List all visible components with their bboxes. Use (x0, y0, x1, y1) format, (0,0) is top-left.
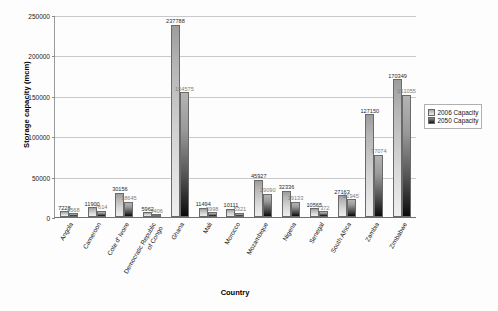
legend-swatch-icon (428, 109, 435, 116)
legend-item[interactable]: 2050 Capacity (428, 117, 478, 124)
bar-groups: 7228456811900761430156186455962340623778… (55, 16, 416, 217)
bar-group: 59623406 (138, 16, 166, 217)
bar: 19133 (291, 202, 300, 217)
bar-chart: Storage capacity (mcm) 05000010000015000… (0, 0, 498, 311)
chart-legend: 2006 Capacity2050 Capacity (424, 104, 482, 129)
legend-label: 2006 Capacity (438, 109, 479, 116)
bar: 3406 (152, 214, 161, 217)
x-category-label: South Africa (332, 221, 360, 283)
x-category-label: Mali (193, 221, 221, 283)
bar-value-label: 154575 (175, 86, 194, 93)
legend-item[interactable]: 2006 Capacity (428, 109, 478, 116)
bar: 7372 (319, 211, 328, 217)
bar: 18645 (124, 202, 133, 217)
bar: 29090 (263, 194, 272, 218)
x-category-text: Cameroon (81, 221, 102, 250)
bar-group: 114945998 (194, 16, 222, 217)
bar-group: 105657372 (305, 16, 333, 217)
x-category-label: Democratic Republic of Congo (138, 221, 166, 283)
x-category-label: Nigeria (277, 221, 305, 283)
bar: 21945 (347, 199, 356, 217)
bar-value-label: 5998 (206, 206, 218, 213)
bar-value-label: 32336 (279, 184, 295, 191)
y-tick-label: 0 (10, 215, 50, 222)
bar: 170349 (393, 79, 402, 217)
bar-group: 12715077074 (360, 16, 388, 217)
y-axis-tick-labels: 050000100000150000200000250000 (10, 0, 50, 311)
y-tick-label: 50000 (10, 174, 50, 181)
bar: 237788 (171, 25, 180, 217)
bar: 154575 (180, 92, 189, 217)
x-axis-category-labels: AngolaCameroonCote d' IvoireDemocratic R… (54, 221, 416, 283)
x-category-text: Mozambique (245, 221, 269, 256)
legend-label: 2050 Capacity (438, 117, 479, 124)
bar-group: 237788154575 (166, 16, 194, 217)
x-axis-title: Country (54, 288, 416, 297)
x-category-text: Mali (201, 221, 213, 234)
x-category-label: Mozambique (249, 221, 277, 283)
y-tick-label: 200000 (10, 53, 50, 60)
x-category-text: Senegal (307, 221, 325, 245)
bar-value-label: 7614 (95, 204, 107, 211)
bar: 4568 (69, 213, 78, 217)
bar-value-label: 127150 (360, 108, 379, 115)
bar: 7614 (97, 211, 106, 217)
x-category-text: Cote d' Ivoire (105, 221, 130, 256)
x-category-text: Nigeria (281, 221, 297, 242)
bar: 151055 (402, 95, 411, 217)
bar-group: 72284568 (55, 16, 83, 217)
bar-value-label: 18645 (121, 195, 137, 202)
x-category-text: Zambia (364, 221, 381, 243)
bar-value-label: 151055 (397, 88, 416, 95)
bar-group: 170349151055 (388, 16, 416, 217)
y-tick-label: 150000 (10, 93, 50, 100)
bar-group: 119007614 (83, 16, 111, 217)
x-category-label: Senegal (305, 221, 333, 283)
x-category-text: Morocco (223, 221, 241, 245)
x-category-text: Ghana (170, 221, 186, 241)
bar-value-label: 170349 (388, 73, 407, 80)
bar-value-label: 3406 (150, 208, 162, 215)
bar-value-label: 5321 (234, 206, 246, 213)
bar: 77074 (374, 155, 383, 217)
x-category-text: Zimbabwe (388, 221, 409, 250)
legend-swatch-icon (428, 117, 435, 124)
bar-value-label: 29090 (260, 187, 276, 194)
bar: 127150 (365, 114, 374, 217)
x-category-label: Zambia (360, 221, 388, 283)
x-category-text: Angola (58, 221, 74, 241)
bar-group: 2716321945 (333, 16, 361, 217)
bar-value-label: 45927 (251, 173, 267, 180)
bar: 45927 (254, 180, 263, 217)
bar-value-label: 21945 (343, 193, 359, 200)
y-tick-label: 250000 (10, 13, 50, 20)
bar-group: 3015618645 (111, 16, 139, 217)
bar: 5998 (208, 212, 217, 217)
bar-value-label: 7372 (317, 205, 329, 212)
plot-area: 7228456811900761430156186455962340623778… (54, 16, 416, 218)
bar-value-label: 237788 (166, 18, 185, 25)
y-tick-mark (52, 218, 55, 219)
bar-value-label: 30156 (112, 186, 128, 193)
x-category-text: South Africa (329, 221, 352, 254)
bar-group: 101115321 (222, 16, 250, 217)
bar-value-label: 4568 (67, 207, 79, 214)
x-category-label: Angola (54, 221, 82, 283)
bar-value-label: 19133 (288, 195, 304, 202)
x-category-label: Zimbabwe (388, 221, 416, 283)
y-tick-label: 100000 (10, 134, 50, 141)
bar-value-label: 77074 (371, 148, 387, 155)
x-category-label: Ghana (165, 221, 193, 283)
bar: 5321 (235, 213, 244, 217)
bar-group: 4592729090 (249, 16, 277, 217)
bar-group: 3233619133 (277, 16, 305, 217)
